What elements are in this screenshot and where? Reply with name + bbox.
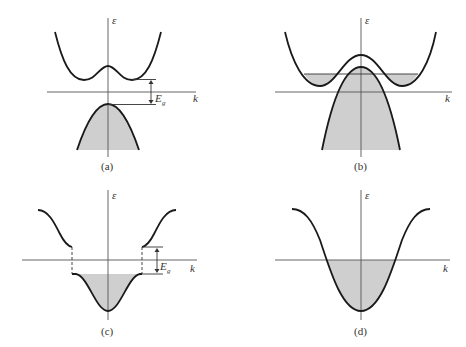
energy-axis-label: ε xyxy=(365,189,370,201)
gap-label-sub: g xyxy=(167,267,171,275)
gap-label: E xyxy=(154,92,162,104)
panel-caption: (a) xyxy=(101,160,114,173)
energy-axis-label: ε xyxy=(112,14,117,26)
panel-a: ε k E g (a) xyxy=(47,14,199,173)
band-structure-figure: ε k E g (a) ε k (b) xyxy=(0,0,466,347)
upper-band-curve-right xyxy=(142,210,176,247)
arrow-head-down-icon xyxy=(155,269,160,273)
energy-axis-label: ε xyxy=(112,189,117,201)
panel-b: ε k (b) xyxy=(275,14,452,173)
panel-d: ε k (d) xyxy=(275,189,450,338)
arrow-head-up-icon xyxy=(155,248,160,252)
panel-caption: (d) xyxy=(354,325,367,338)
panel-c: ε k E g (c) xyxy=(22,189,197,338)
k-axis-label: k xyxy=(445,92,451,104)
k-axis-label: k xyxy=(443,262,449,274)
panel-caption: (b) xyxy=(354,160,367,173)
panel-caption: (c) xyxy=(101,325,114,338)
k-axis-label: k xyxy=(193,92,199,104)
upper-band-curve-left xyxy=(38,210,72,247)
k-axis-label: k xyxy=(190,262,196,274)
energy-axis-label: ε xyxy=(365,14,370,26)
arrow-head-down-icon xyxy=(149,100,154,104)
gap-label: E xyxy=(159,260,167,272)
arrow-head-up-icon xyxy=(149,80,154,84)
gap-label-sub: g xyxy=(162,99,166,107)
